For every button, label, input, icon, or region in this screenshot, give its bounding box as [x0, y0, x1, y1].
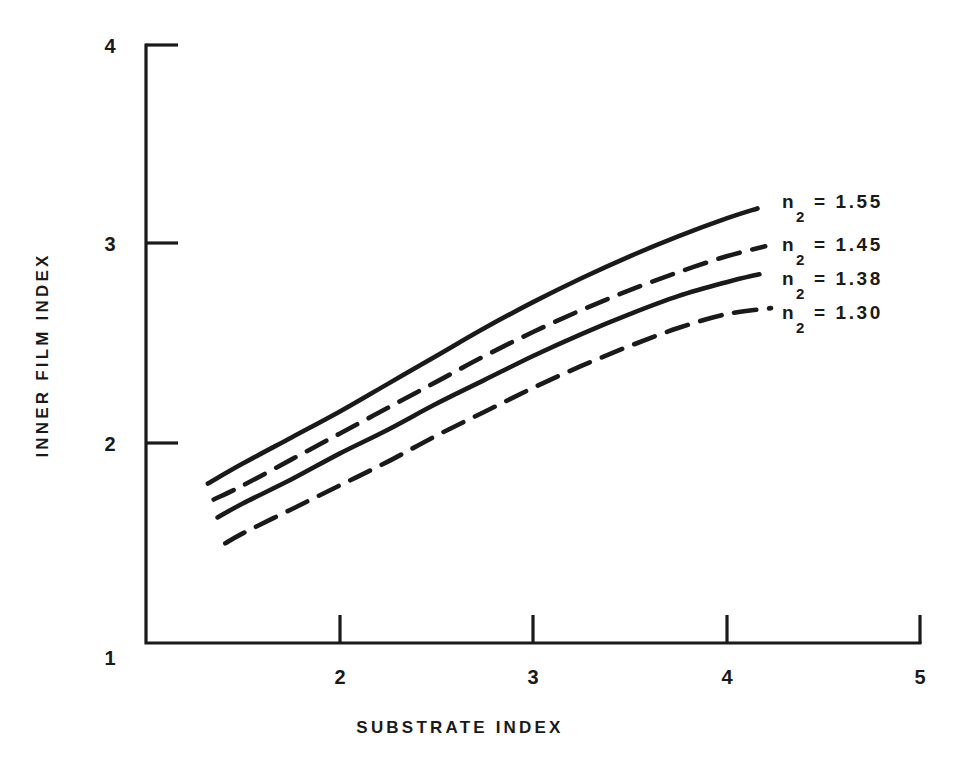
y-axis-ticks [146, 45, 178, 443]
x-axis-title: SUBSTRATE INDEX [356, 718, 563, 737]
axis-lines [146, 45, 920, 643]
legend-subscript-0: 2 [796, 208, 804, 225]
legend-value-2: = 1.38 [814, 268, 883, 289]
x-tick-labels: 2 3 4 5 [334, 666, 925, 688]
chart-canvas: 4 3 2 1 2 3 4 5 SUBSTRATE INDEX INNER FI… [0, 0, 959, 761]
legend-var-1: n [782, 234, 796, 255]
x-tick-label-4: 4 [721, 666, 733, 688]
x-tick-label-2: 2 [334, 666, 345, 688]
curve-series-2 [218, 274, 760, 517]
legend-value-0: = 1.55 [814, 191, 883, 212]
curve-series-1 [214, 246, 765, 499]
legend-subscript-3: 2 [796, 319, 804, 336]
chart-legend: n2= 1.55n2= 1.45n2= 1.38n2= 1.30 [782, 191, 883, 336]
y-tick-label-3: 3 [104, 233, 115, 255]
y-tick-label-1: 1 [104, 647, 115, 669]
data-curves [208, 208, 771, 543]
legend-value-3: = 1.30 [814, 302, 883, 323]
y-tick-labels: 4 3 2 1 [104, 35, 116, 669]
y-axis-title: INNER FILM INDEX [33, 252, 52, 457]
axis-frame [146, 45, 920, 643]
curve-series-3 [225, 308, 771, 543]
x-tick-label-5: 5 [914, 666, 925, 688]
chart-figure: 4 3 2 1 2 3 4 5 SUBSTRATE INDEX INNER FI… [0, 0, 959, 761]
legend-value-1: = 1.45 [814, 234, 883, 255]
x-axis-ticks [340, 615, 920, 643]
legend-var-0: n [782, 191, 796, 212]
y-tick-label-2: 2 [104, 433, 115, 455]
x-tick-label-3: 3 [527, 666, 538, 688]
legend-subscript-2: 2 [796, 285, 804, 302]
legend-var-3: n [782, 302, 796, 323]
y-tick-label-4: 4 [104, 35, 116, 57]
legend-subscript-1: 2 [796, 251, 804, 268]
curve-series-0 [208, 208, 758, 483]
legend-var-2: n [782, 268, 796, 289]
